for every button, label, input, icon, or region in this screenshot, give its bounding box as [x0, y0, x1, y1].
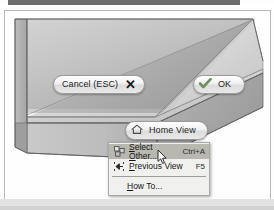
- cad-viewport[interactable]: Cancel (ESC) ✕ OK: [5, 11, 270, 199]
- home-view-button[interactable]: Home View: [125, 121, 208, 140]
- menu-separator: [112, 176, 206, 177]
- cancel-button-label: Cancel (ESC): [62, 80, 118, 89]
- home-icon: [131, 124, 143, 137]
- cad-viewport-frame: Cancel (ESC) ✕ OK: [4, 10, 271, 200]
- previous-view-icon: [111, 160, 127, 173]
- mouse-cursor: [157, 149, 168, 165]
- ok-button[interactable]: OK: [193, 75, 245, 94]
- bottom-band-lower: [0, 206, 274, 210]
- screenshot-page: Cancel (ESC) ✕ OK: [0, 0, 274, 210]
- select-other-icon: [111, 145, 127, 158]
- ok-button-label: OK: [218, 80, 231, 89]
- menu-item-select-other-label: Select Other...: [127, 143, 183, 160]
- close-x-icon: ✕: [125, 78, 136, 91]
- cancel-button[interactable]: Cancel (ESC) ✕: [53, 75, 145, 94]
- home-view-button-label: Home View: [149, 126, 196, 135]
- menu-item-select-other-shortcut: Ctrl+A: [183, 148, 205, 156]
- check-icon: [199, 78, 212, 91]
- menu-item-how-to-label: How To...: [111, 182, 205, 191]
- menu-item-previous-view-shortcut: F5: [196, 163, 205, 171]
- menu-item-how-to[interactable]: How To...: [109, 179, 209, 194]
